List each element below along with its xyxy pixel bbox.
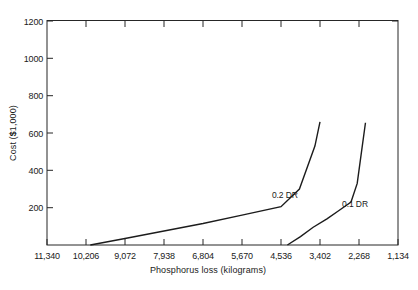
y-tick-label: 200 [29,203,44,213]
x-axis-tick-labels: 11,340 10,206 9,072 7,938 6,804 5,670 4,… [34,251,409,261]
plot-frame [47,21,398,246]
chart-screenshot: 1200 1000 800 600 400 200 11,340 10,206 … [0,0,418,290]
x-tick-label: 10,206 [73,251,100,261]
x-tick-label: 5,670 [231,251,253,261]
svg-text:Cost ($1,000): Cost ($1,000) [8,105,18,161]
series-label-0-1-dr: 0.1 DR [342,199,368,209]
y-tick-label: 800 [29,91,44,101]
x-tick-label: 6,804 [192,251,214,261]
y-tick-label: 1000 [24,54,43,64]
x-tick-label: 4,536 [270,251,292,261]
y-tick-label: 400 [29,166,44,176]
y-axis-ticks [47,21,53,208]
x-axis-ticks-top [86,21,359,27]
phosphorus-loss-cost-chart: 1200 1000 800 600 400 200 11,340 10,206 … [0,0,418,290]
series-label-0-2-dr: 0.2 DR [272,190,298,200]
x-tick-label: 1,134 [387,251,409,261]
y-axis-title-prefix: Cost ( [8,136,18,161]
series-line-0-2-dr [90,122,320,245]
x-tick-label: 9,072 [114,251,136,261]
y-axis-title-suffix: 1,000) [8,105,18,131]
x-tick-label: 2,268 [348,251,370,261]
x-axis-title: Phosphorus loss (kilograms) [150,265,266,275]
y-tick-label: 1200 [24,17,43,27]
x-tick-label: 3,402 [309,251,331,261]
y-axis-tick-labels: 1200 1000 800 600 400 200 [24,17,43,214]
y-tick-label: 600 [29,129,44,139]
series-line-0-1-dr [287,123,365,245]
x-tick-label: 7,938 [153,251,175,261]
y-axis-title: Cost ($1,000) [8,105,18,161]
x-axis-ticks-bottom [47,239,398,245]
data-series-group [90,122,365,245]
x-tick-label: 11,340 [34,251,60,261]
